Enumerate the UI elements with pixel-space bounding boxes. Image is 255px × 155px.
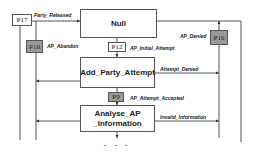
place-p9: P9: [108, 92, 124, 102]
analyse-line2: _Information: [93, 119, 141, 129]
label-ap-denied: AP_Denied: [180, 33, 206, 39]
state-null: Null: [80, 9, 157, 38]
place-p12: P12: [108, 42, 126, 52]
label-attempt-denied: Attempt_Denied: [160, 66, 198, 72]
state-analyse-ap-information: Analyse_AP _Information: [80, 105, 155, 132]
label-ap-attempt-accepted: AP_Attempt_Accepted: [130, 95, 184, 101]
label-ap-initial-attempt: AP_Initial_Attempt: [130, 45, 174, 51]
place-p10: P10: [26, 40, 43, 53]
continuation-dots: . . .: [104, 139, 130, 148]
label-invalid-information: Invalid_Information: [160, 114, 206, 120]
place-p16: P16: [210, 30, 228, 45]
state-add-party-attempt: Add_Party_Attempt: [80, 57, 155, 88]
label-ap-abandon: AP_Abandon: [47, 43, 78, 49]
analyse-line1: Analyse_AP: [94, 109, 140, 119]
label-party-released: Party_Released: [34, 12, 71, 18]
place-p17: P17: [12, 14, 32, 26]
